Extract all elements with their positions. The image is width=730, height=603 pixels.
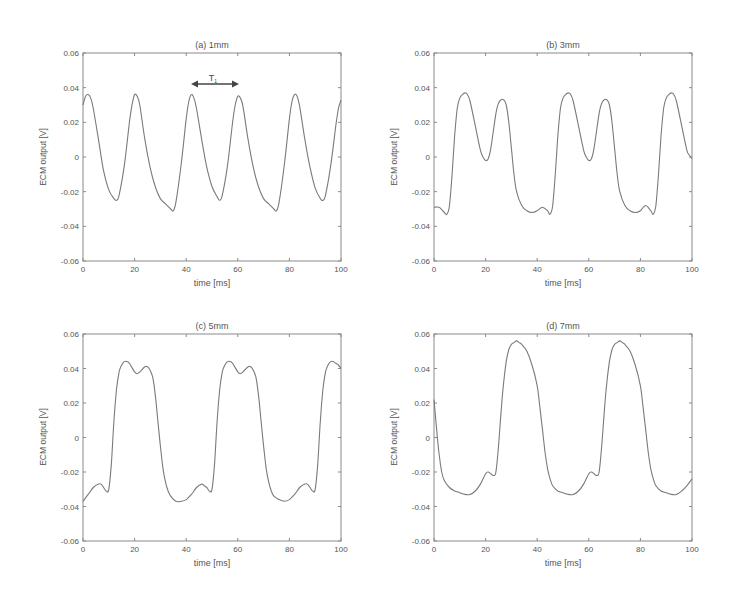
- subplot-b: (b) 3mm 020406080100-0.06-0.04-0.0200.02…: [389, 40, 699, 288]
- y-axis-label: ECM output [V]: [38, 408, 48, 466]
- x-tick-label: 0: [432, 265, 437, 274]
- y-tick-label: 0.04: [414, 365, 430, 374]
- y-tick-label: -0.02: [61, 188, 80, 197]
- y-tick-label: 0.06: [414, 330, 430, 339]
- x-axis-label: time [ms]: [194, 558, 231, 568]
- x-tick-label: 0: [81, 265, 86, 274]
- x-tick-label: 40: [182, 265, 191, 274]
- x-tick-label: 60: [584, 265, 593, 274]
- x-tick-label: 80: [636, 265, 645, 274]
- axes-frame: [434, 334, 692, 541]
- subplot-title: (a) 1mm: [195, 40, 229, 50]
- y-tick-label: -0.04: [61, 222, 80, 231]
- x-axis-label: time [ms]: [545, 558, 582, 568]
- x-tick-label: 80: [636, 545, 645, 554]
- y-tick-label: 0: [75, 434, 80, 443]
- data-line: [83, 361, 341, 502]
- ticks: 020406080100-0.06-0.04-0.0200.020.040.06: [61, 49, 348, 274]
- y-tick-label: 0.06: [63, 330, 79, 339]
- y-tick-label: -0.02: [412, 468, 431, 477]
- subplot-title: (b) 3mm: [546, 40, 580, 50]
- y-tick-label: -0.02: [61, 468, 80, 477]
- y-tick-label: -0.04: [61, 503, 80, 512]
- x-tick-label: 20: [481, 545, 490, 554]
- x-tick-label: 40: [533, 265, 542, 274]
- arrow-right-icon: [232, 81, 239, 88]
- data-line: [434, 93, 692, 215]
- axes-frame: [434, 53, 692, 261]
- y-tick-label: -0.04: [412, 503, 431, 512]
- period-label: T1: [209, 73, 218, 84]
- x-tick-label: 100: [334, 265, 348, 274]
- subplot-title: (c) 5mm: [196, 321, 229, 331]
- y-tick-label: 0.02: [63, 399, 79, 408]
- x-tick-label: 80: [285, 265, 294, 274]
- subplot-d: (d) 7mm 020406080100-0.06-0.04-0.0200.02…: [389, 321, 699, 568]
- y-tick-label: 0: [426, 153, 431, 162]
- x-tick-label: 100: [334, 545, 348, 554]
- y-tick-label: -0.06: [61, 257, 80, 266]
- x-tick-label: 0: [81, 545, 86, 554]
- y-tick-label: -0.04: [412, 222, 431, 231]
- x-tick-label: 20: [130, 545, 139, 554]
- ticks: 020406080100-0.06-0.04-0.0200.020.040.06: [61, 330, 348, 554]
- x-axis-label: time [ms]: [194, 278, 231, 288]
- subplot-c: (c) 5mm 020406080100-0.06-0.04-0.0200.02…: [38, 321, 348, 568]
- x-tick-label: 100: [685, 545, 699, 554]
- ticks: 020406080100-0.06-0.04-0.0200.020.040.06: [412, 49, 699, 274]
- x-tick-label: 20: [130, 265, 139, 274]
- y-axis-label: ECM output [V]: [389, 408, 399, 466]
- y-tick-label: 0.02: [63, 118, 79, 127]
- x-tick-label: 100: [685, 265, 699, 274]
- ticks: 020406080100-0.06-0.04-0.0200.020.040.06: [412, 330, 699, 554]
- y-tick-label: 0.06: [414, 49, 430, 58]
- subplot-title: (d) 7mm: [546, 321, 580, 331]
- x-tick-label: 20: [481, 265, 490, 274]
- y-tick-label: 0: [426, 434, 431, 443]
- x-tick-label: 40: [182, 545, 191, 554]
- x-tick-label: 60: [233, 545, 242, 554]
- x-tick-label: 60: [584, 545, 593, 554]
- y-tick-label: -0.06: [412, 257, 431, 266]
- y-tick-label: 0.04: [414, 84, 430, 93]
- y-tick-label: 0.02: [414, 118, 430, 127]
- y-tick-label: 0.04: [63, 365, 79, 374]
- arrow-left-icon: [191, 81, 198, 88]
- y-tick-label: -0.06: [412, 537, 431, 546]
- y-tick-label: 0.06: [63, 49, 79, 58]
- x-tick-label: 40: [533, 545, 542, 554]
- period-annotation: T1: [191, 73, 239, 88]
- y-axis-label: ECM output [V]: [38, 128, 48, 186]
- data-line: [434, 341, 692, 495]
- x-tick-label: 0: [432, 545, 437, 554]
- x-tick-label: 60: [233, 265, 242, 274]
- data-line: [83, 94, 341, 211]
- figure-canvas: (a) 1mm 020406080100-0.06-0.04-0.0200.02…: [0, 0, 730, 603]
- subplot-a: (a) 1mm 020406080100-0.06-0.04-0.0200.02…: [38, 40, 348, 288]
- y-tick-label: -0.06: [61, 537, 80, 546]
- x-tick-label: 80: [285, 545, 294, 554]
- y-tick-label: 0: [75, 153, 80, 162]
- y-tick-label: 0.04: [63, 84, 79, 93]
- figure: (a) 1mm 020406080100-0.06-0.04-0.0200.02…: [0, 0, 730, 603]
- x-axis-label: time [ms]: [545, 278, 582, 288]
- y-tick-label: 0.02: [414, 399, 430, 408]
- y-axis-label: ECM output [V]: [389, 128, 399, 186]
- y-tick-label: -0.02: [412, 188, 431, 197]
